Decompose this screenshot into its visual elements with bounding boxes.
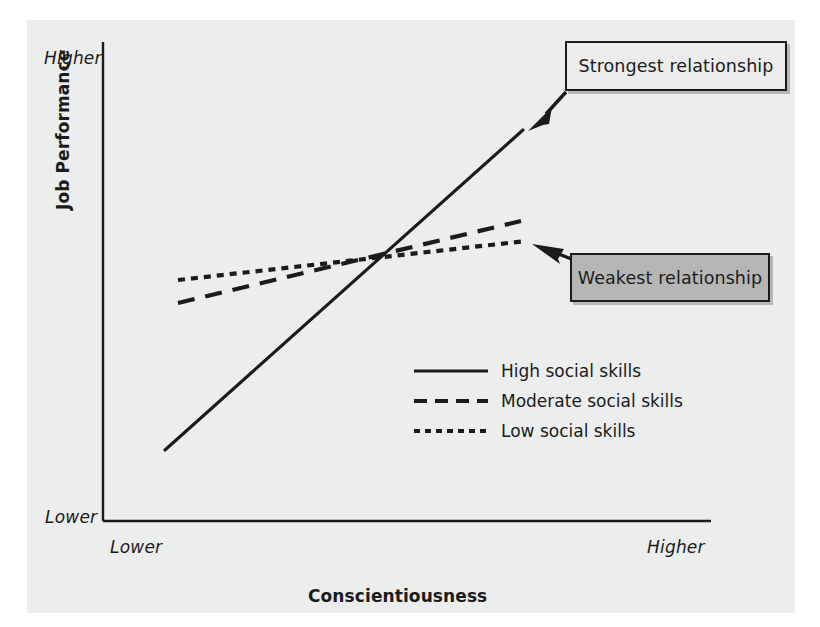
series-line-low-social-skills	[178, 241, 526, 280]
arrowhead-strongest-relationship	[528, 107, 552, 131]
chart-graphics	[0, 0, 820, 627]
legend-label-high-social-skills: High social skills	[501, 361, 641, 381]
arrowhead-weakest-relationship	[532, 244, 564, 264]
x-axis-title: Conscientiousness	[308, 586, 487, 606]
legend-label-moderate-social-skills: Moderate social skills	[501, 391, 683, 411]
annotation-weakest-relationship: Weakest relationship	[570, 253, 770, 302]
y-axis-title: Job Performance	[53, 50, 73, 210]
series-line-high-social-skills	[165, 130, 523, 450]
legend-label-low-social-skills: Low social skills	[501, 421, 635, 441]
annotation-strongest-relationship: Strongest relationship	[565, 41, 787, 91]
figure-container: Higher Lower Lower Higher Job Performanc…	[0, 0, 820, 627]
x-axis-tick-label-low: Lower	[110, 537, 162, 557]
x-axis-tick-label-high: Higher	[647, 537, 705, 557]
y-axis-tick-label-low: Lower	[45, 507, 97, 527]
